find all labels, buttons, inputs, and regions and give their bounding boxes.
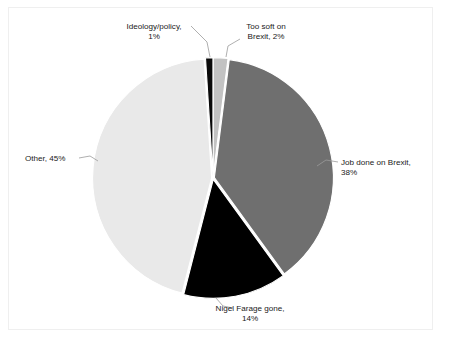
slice-label-line2-nigel-farage-gone: 14% — [242, 314, 258, 323]
slice-label-line2-job-done-on-brexit: 38% — [341, 168, 357, 177]
slice-label-line1-too-soft-on-brexit: Too soft on — [246, 22, 286, 31]
slice-label-job-done-on-brexit: Job done on Brexit,38% — [341, 158, 411, 177]
slice-label-other: Other, 45% — [25, 154, 66, 163]
leader-line-too-soft-on-brexit — [226, 39, 240, 57]
slice-label-line1-other: Other, 45% — [25, 154, 66, 163]
slice-label-ideology-policy: Ideology/policy,1% — [126, 22, 181, 41]
slice-label-line1-ideology-policy: Ideology/policy, — [126, 22, 181, 31]
slice-label-too-soft-on-brexit: Too soft onBrexit, 2% — [246, 22, 286, 41]
pie-chart: Too soft onBrexit, 2%Job done on Brexit,… — [0, 0, 451, 347]
chart-canvas: Too soft onBrexit, 2%Job done on Brexit,… — [0, 0, 451, 347]
slice-label-nigel-farage-gone: Nigel Farage gone,14% — [216, 304, 285, 323]
slice-label-line2-too-soft-on-brexit: Brexit, 2% — [248, 32, 285, 41]
leader-line-ideology-policy — [191, 26, 210, 57]
pie-slices-group — [93, 58, 334, 299]
slice-label-line1-job-done-on-brexit: Job done on Brexit, — [341, 158, 411, 167]
slice-label-line2-ideology-policy: 1% — [148, 32, 160, 41]
slice-label-line1-nigel-farage-gone: Nigel Farage gone, — [216, 304, 285, 313]
